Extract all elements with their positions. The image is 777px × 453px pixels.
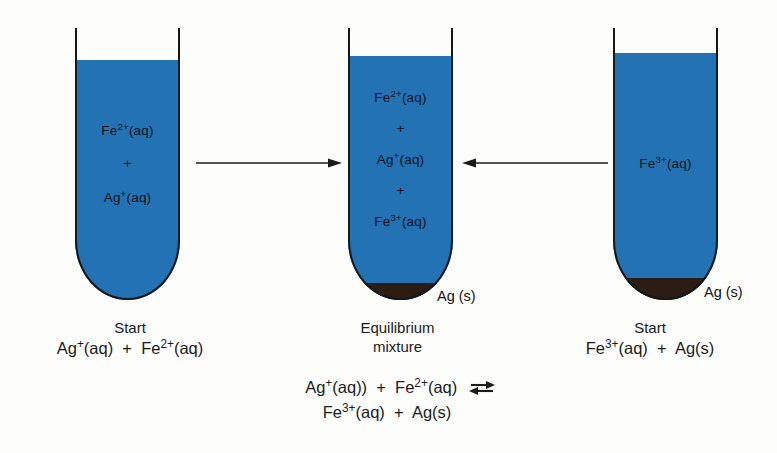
silver-label-middle: Ag (s) (437, 288, 476, 304)
tube-left-species-0: Fe2+(aq) (75, 123, 180, 138)
equilibrium-equation: Ag+(aq)) + Fe2+(aq) Fe3+(aq) + Ag(s) (255, 376, 545, 424)
tube-left-solution (75, 60, 180, 300)
caption-middle-title-line2: mixture (290, 337, 505, 356)
equation-reactants: Ag+(aq)) + Fe2+(aq) (305, 378, 457, 396)
tube-left-species-2: Ag+(aq) (75, 190, 180, 205)
arrow-left-icon (462, 155, 608, 171)
caption-right: Start Fe3+(aq) + Ag(s) (525, 318, 775, 360)
tube-left-species-1: + (75, 156, 180, 171)
species-formula: + (396, 183, 404, 198)
species-formula: Ag+(aq) (104, 190, 152, 205)
caption-middle-title-line1: Equilibrium (290, 318, 505, 337)
species-formula: + (123, 156, 131, 171)
caption-left-formula: Ag+(aq) + Fe2+(aq) (0, 337, 260, 360)
caption-right-formula: Fe3+(aq) + Ag(s) (525, 337, 775, 360)
tube-middle-species-4: Fe3+(aq) (348, 214, 453, 229)
arrow-right-icon (196, 155, 342, 171)
tube-middle-species-0: Fe2+(aq) (348, 90, 453, 105)
tube-middle-species-2: Ag+(aq) (348, 152, 453, 167)
equilibrium-double-arrow-icon (469, 378, 495, 401)
equilibrium-equation-line2: Fe3+(aq) + Ag(s) (255, 401, 545, 424)
caption-middle: Equilibrium mixture (290, 318, 505, 356)
arrow-right-to-middle (462, 155, 608, 171)
species-formula: Fe3+(aq) (639, 156, 691, 171)
equilibrium-equation-line1: Ag+(aq)) + Fe2+(aq) (255, 376, 545, 401)
silver-label-right: Ag (s) (704, 284, 743, 300)
tube-right-species-0: Fe3+(aq) (613, 156, 718, 171)
species-formula: Fe2+(aq) (101, 123, 153, 138)
arrow-left-to-middle (196, 155, 342, 171)
caption-left: Start Ag+(aq) + Fe2+(aq) (0, 318, 260, 360)
tube-middle-species-3: + (348, 183, 453, 198)
figure-canvas: Fe2+(aq) + Ag+(aq) Fe2+(aq) + Ag+(aq) + … (0, 0, 777, 453)
test-tube-middle: Fe2+(aq) + Ag+(aq) + Fe3+(aq) (348, 28, 453, 300)
tube-middle-species-1: + (348, 121, 453, 136)
test-tube-left: Fe2+(aq) + Ag+(aq) (75, 28, 180, 300)
species-formula: Ag+(aq) (377, 152, 425, 167)
test-tube-right: Fe3+(aq) (613, 28, 718, 300)
caption-left-title: Start (0, 318, 260, 337)
species-formula: Fe3+(aq) (374, 214, 426, 229)
species-formula: + (396, 121, 404, 136)
species-formula: Fe2+(aq) (374, 90, 426, 105)
tube-right-solution (613, 53, 718, 300)
caption-right-title: Start (525, 318, 775, 337)
